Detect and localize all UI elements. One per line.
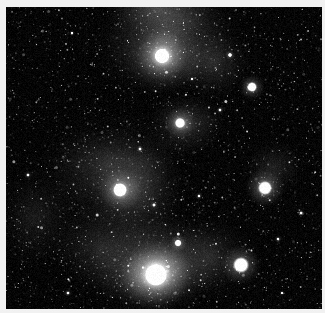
astronomy-image-page — [0, 0, 325, 313]
border-top — [0, 0, 325, 7]
border-bottom — [0, 309, 325, 313]
image-frame — [6, 7, 322, 309]
deep-sky-image-canvas — [6, 7, 322, 309]
border-left — [0, 0, 6, 313]
sky-field — [6, 7, 322, 309]
